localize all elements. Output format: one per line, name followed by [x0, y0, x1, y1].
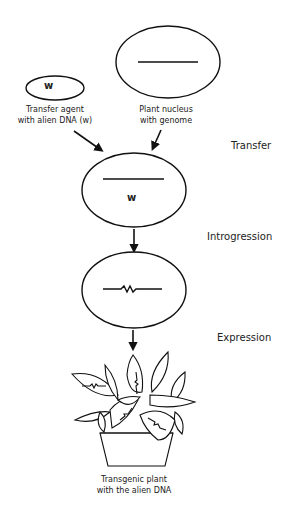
integrated-dna-line — [103, 286, 162, 292]
plant-nucleus-label: Plant nucleus with genome — [116, 104, 216, 126]
transfer-result-node — [82, 153, 186, 227]
transfer-agent-symbol: w — [44, 80, 53, 91]
transgenic-plant-illustration — [72, 352, 195, 466]
arrow-agent-to-cell — [74, 131, 101, 150]
arrow-nucleus-to-cell — [153, 130, 161, 148]
introgression-result-node — [82, 252, 186, 328]
transfer-agent-label: Transfer agent with alien DNA (w) — [5, 104, 105, 126]
step-introgression-label: Introgression — [207, 231, 272, 242]
step-expression-label: Expression — [217, 332, 271, 343]
alien-dna-symbol: w — [127, 192, 136, 203]
step-transfer-label: Transfer — [231, 140, 271, 151]
transfer-agent-node — [26, 76, 84, 100]
diagram-canvas — [0, 0, 282, 515]
transgenic-plant-label: Transgenic plant with the alien DNA — [84, 474, 184, 496]
plant-nucleus-node — [116, 26, 220, 98]
